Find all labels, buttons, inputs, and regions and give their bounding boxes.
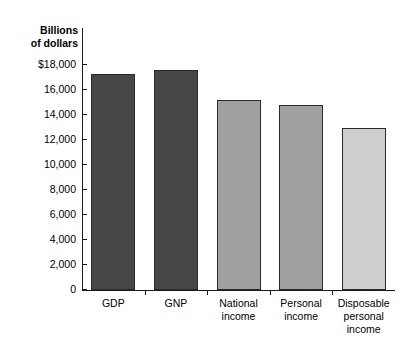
x-axis-tick-mark bbox=[145, 290, 146, 295]
x-axis-tick-mark bbox=[332, 290, 333, 295]
y-axis-tick-mark bbox=[82, 114, 87, 115]
x-axis-category-label: National income bbox=[207, 297, 270, 323]
x-axis-category-label: GDP bbox=[82, 297, 145, 310]
y-axis-tick-mark bbox=[82, 214, 87, 215]
y-axis-tick-mark bbox=[82, 189, 87, 190]
y-axis-tick-label: 8,000 bbox=[0, 183, 76, 195]
y-axis-tick-label: $18,000 bbox=[0, 58, 76, 70]
y-axis-tick-mark bbox=[82, 239, 87, 240]
y-axis-line bbox=[82, 28, 83, 291]
y-axis-title: Billions of dollars bbox=[0, 24, 78, 49]
bar bbox=[154, 70, 198, 290]
x-axis-tick-mark bbox=[270, 290, 271, 295]
y-axis-tick-mark bbox=[82, 89, 87, 90]
y-axis-tick-label: 16,000 bbox=[0, 83, 76, 95]
y-axis-tick-mark bbox=[82, 164, 87, 165]
y-axis-tick-mark bbox=[82, 64, 87, 65]
y-axis-tick-label: 14,000 bbox=[0, 108, 76, 120]
bar-chart: Billions of dollars $18,00016,00014,0001… bbox=[0, 0, 416, 339]
y-axis-tick-label: 10,000 bbox=[0, 158, 76, 170]
y-axis-tick-label: 6,000 bbox=[0, 208, 76, 220]
y-axis-tick-label: 4,000 bbox=[0, 233, 76, 245]
bar bbox=[279, 105, 323, 290]
x-axis-line bbox=[82, 290, 395, 291]
y-axis-tick-label: 2,000 bbox=[0, 258, 76, 270]
x-axis-category-label: Disposable personal income bbox=[332, 297, 395, 336]
bar bbox=[91, 74, 135, 290]
y-axis-tick-mark bbox=[82, 289, 87, 290]
bar bbox=[342, 128, 386, 291]
x-axis-category-label: Personal income bbox=[270, 297, 333, 323]
x-axis-category-label: GNP bbox=[145, 297, 208, 310]
y-axis-tick-label: 0 bbox=[0, 283, 76, 295]
y-axis-tick-mark bbox=[82, 139, 87, 140]
bar bbox=[217, 100, 261, 290]
y-axis-tick-mark bbox=[82, 264, 87, 265]
y-axis-tick-label: 12,000 bbox=[0, 133, 76, 145]
x-axis-tick-mark bbox=[207, 290, 208, 295]
